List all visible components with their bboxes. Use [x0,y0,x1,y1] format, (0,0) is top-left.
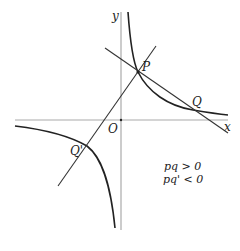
point-P-dot [136,70,139,73]
condition-pq: pq > 0 [164,160,201,173]
y-axis-label: y [111,9,119,23]
x-axis-label: x [224,120,231,134]
point-Qprime-label: Q' [70,144,83,158]
origin-label: O [108,122,118,136]
point-Q-label: Q [192,95,202,109]
hyperbola-left-branch [15,126,115,228]
point-origin-dot [120,119,122,121]
hyperbola-diagram: y x O P Q Q' pq > 0 pq' < 0 [0,0,240,251]
condition-pqprime: pq' < 0 [163,173,203,186]
point-P-label: P [141,60,151,74]
